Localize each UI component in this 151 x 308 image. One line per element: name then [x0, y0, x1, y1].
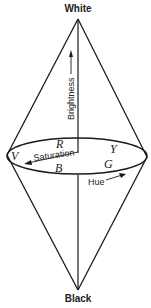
- hue-arrow-head-icon: [119, 173, 126, 178]
- brightness-arrow-head-icon: [69, 50, 73, 57]
- upper-cone-right-edge: [78, 19, 147, 157]
- white-label: White: [64, 3, 92, 14]
- hue-letter-green: G: [104, 157, 113, 171]
- hue-letter-yellow: Y: [110, 142, 118, 156]
- hue-label: Hue: [88, 177, 105, 187]
- saturation-label: Saturation: [33, 147, 75, 163]
- hue-circle-ellipse: [7, 138, 147, 174]
- brightness-label: Brightness: [66, 77, 76, 120]
- hue-arrow-shaft: [106, 175, 122, 180]
- hue-letter-violet: V: [11, 149, 20, 163]
- black-label: Black: [65, 293, 92, 304]
- hue-letter-red: R: [55, 137, 64, 151]
- hue-letter-blue: B: [55, 161, 63, 175]
- color-double-cone-diagram: Brightness Saturation R Y G B V Hue Whit…: [0, 0, 151, 308]
- lower-cone-left-edge: [7, 155, 78, 290]
- saturation-arrow-head-icon: [24, 160, 32, 165]
